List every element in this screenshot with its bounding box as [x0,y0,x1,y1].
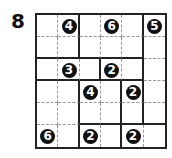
grid-cell[interactable] [101,37,122,59]
grid-cell[interactable] [144,59,165,81]
grid-cell[interactable] [122,103,143,125]
clue-circle: 2 [83,129,98,144]
grid-cell[interactable] [144,37,165,59]
clue-circle: 2 [104,63,119,78]
grid-cell[interactable] [37,15,58,37]
grid-cell[interactable] [144,81,165,103]
grid-cell[interactable] [80,15,101,37]
grid-cell[interactable] [80,59,101,81]
clue-circle: 6 [40,129,55,144]
grid-cell[interactable] [101,81,122,103]
grid-cell[interactable] [58,81,79,103]
grid-cell[interactable] [58,37,79,59]
grid-cell[interactable] [101,103,122,125]
grid-cell[interactable] [37,59,58,81]
clue-circle: 4 [62,19,77,34]
grid-cell[interactable] [80,103,101,125]
clue-circle: 3 [62,63,77,78]
grid-cell[interactable] [58,103,79,125]
grid-cell[interactable] [101,125,122,147]
grid-cell[interactable] [37,81,58,103]
grid-cell[interactable] [58,125,79,147]
grid-cell[interactable] [37,103,58,125]
clue-circle: 2 [126,85,141,100]
puzzle-number-label: 8 [11,11,25,31]
grid-cell[interactable] [122,37,143,59]
clue-circle: 4 [83,85,98,100]
clue-circle: 2 [126,129,141,144]
clue-circle: 6 [104,19,119,34]
grid-cell[interactable] [80,37,101,59]
clue-circle: 5 [147,19,162,34]
grid-cell[interactable] [144,125,165,147]
puzzle-grid: 4653242622 [35,13,167,149]
grid-cell[interactable] [37,37,58,59]
grid-cell[interactable] [144,103,165,125]
grid-cell[interactable] [122,59,143,81]
grid-cell[interactable] [122,15,143,37]
